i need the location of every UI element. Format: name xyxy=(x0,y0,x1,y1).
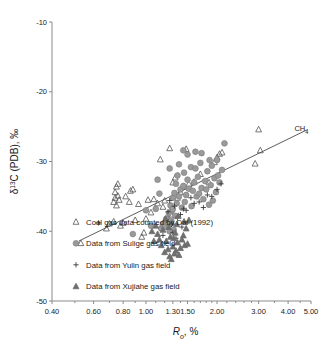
data-point xyxy=(197,160,203,166)
x-tick-label: 1.00 xyxy=(139,307,154,316)
y-tick-label: -40 xyxy=(36,227,47,236)
x-tick-label: 1.50 xyxy=(180,307,195,316)
data-point xyxy=(203,187,209,193)
data-point xyxy=(202,178,208,184)
data-point xyxy=(256,126,262,132)
legend-label: Coal gas data counted by Dai (1992) xyxy=(86,218,213,227)
data-point xyxy=(170,206,176,212)
data-point xyxy=(149,228,155,234)
data-point xyxy=(180,232,186,238)
data-point xyxy=(143,207,149,213)
data-point xyxy=(136,201,142,207)
data-point xyxy=(176,161,182,167)
data-point xyxy=(116,197,122,203)
x-tick-label: 5.00 xyxy=(304,307,319,316)
data-point xyxy=(204,168,210,174)
data-point xyxy=(151,196,157,202)
data-point xyxy=(214,157,220,163)
data-point xyxy=(167,166,173,172)
data-point xyxy=(191,180,197,186)
annotation-ch4: CH4 xyxy=(294,124,308,135)
x-tick-label: 3.00 xyxy=(251,307,266,316)
y-axis-title: δ13C (PDB), ‰ xyxy=(9,129,21,195)
legend-marker xyxy=(73,240,79,246)
data-point xyxy=(173,181,179,187)
data-point xyxy=(155,177,161,183)
legend-item: Data from Sulige gas field xyxy=(73,239,175,248)
data-point xyxy=(179,205,185,211)
scatter-plot: -50-40-30-20-100.400.600.801.001.301.502… xyxy=(0,0,323,346)
data-point xyxy=(155,231,161,237)
data-point xyxy=(215,173,221,179)
data-point xyxy=(208,182,214,188)
data-point xyxy=(183,192,189,198)
data-point xyxy=(193,166,199,172)
data-point xyxy=(157,156,163,162)
data-point xyxy=(114,202,120,208)
data-point xyxy=(209,163,215,169)
data-point xyxy=(213,189,219,195)
legend-item: Coal gas data counted by Dai (1992) xyxy=(73,218,213,227)
data-point xyxy=(145,197,151,203)
data-point xyxy=(157,191,163,197)
legend-marker xyxy=(73,219,79,225)
legend-marker xyxy=(73,283,79,289)
x-tick-label: 4.00 xyxy=(281,307,296,316)
data-point xyxy=(180,147,186,153)
data-point xyxy=(190,188,196,194)
data-point xyxy=(181,170,187,176)
data-point xyxy=(176,193,182,199)
x-tick-label: 1.30 xyxy=(166,307,181,316)
data-point xyxy=(222,140,228,146)
data-point xyxy=(153,206,159,212)
legend-label: Data from Xujiahe gas field xyxy=(86,282,180,291)
data-point xyxy=(207,157,213,163)
data-point xyxy=(196,191,202,197)
x-tick-label: 0.80 xyxy=(116,307,131,316)
legend-label: Data from Yulin gas field xyxy=(86,261,170,270)
data-point xyxy=(130,231,136,237)
data-point xyxy=(167,145,173,151)
legend-item: Data from Yulin gas field xyxy=(73,261,170,270)
data-point xyxy=(257,147,263,153)
data-point xyxy=(175,173,181,179)
data-point xyxy=(219,167,225,173)
data-point xyxy=(180,183,186,189)
y-tick-label: -50 xyxy=(36,297,47,306)
data-point xyxy=(185,177,191,183)
data-point xyxy=(217,180,223,186)
chart-container: -50-40-30-20-100.400.600.801.001.301.502… xyxy=(0,0,323,346)
data-point xyxy=(252,160,258,166)
data-point xyxy=(182,199,188,205)
x-axis-title: Ro, % xyxy=(173,326,199,340)
legend-label: Data from Sulige gas field xyxy=(86,239,175,248)
data-point xyxy=(193,149,199,155)
data-point xyxy=(189,203,195,209)
data-point xyxy=(210,198,216,204)
data-point xyxy=(200,196,206,202)
legend-item: Data from Xujiahe gas field xyxy=(73,282,180,291)
data-point xyxy=(160,204,166,210)
y-tick-label: -20 xyxy=(36,87,47,96)
y-tick-label: -30 xyxy=(36,157,47,166)
data-point xyxy=(126,199,132,205)
x-tick-label: 2.00 xyxy=(210,307,225,316)
data-point xyxy=(141,230,147,236)
data-point xyxy=(123,193,129,199)
data-point xyxy=(195,174,201,180)
y-tick-label: -10 xyxy=(36,18,47,27)
x-tick-label: 0.40 xyxy=(45,307,60,316)
x-tick-label: 0.60 xyxy=(86,307,101,316)
data-point xyxy=(199,150,205,156)
